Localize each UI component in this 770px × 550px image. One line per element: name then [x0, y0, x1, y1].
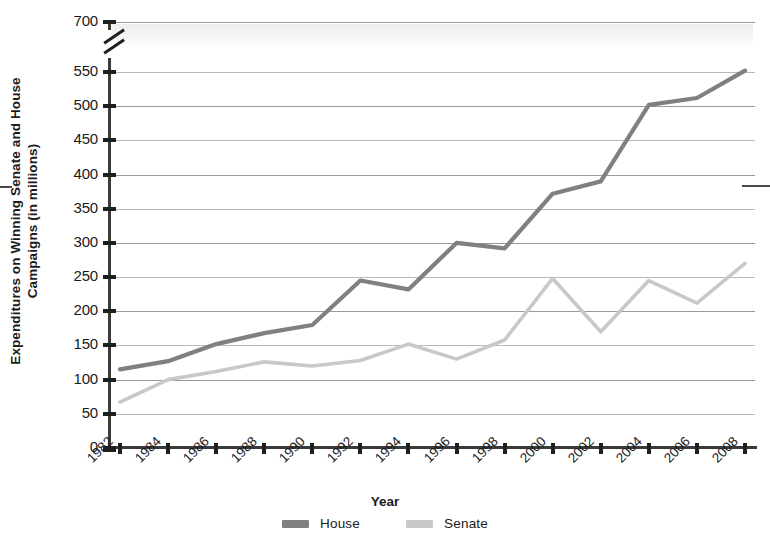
x-tick-1990 — [310, 443, 314, 454]
y-tick-label-300: 300 — [52, 233, 98, 250]
x-tick-2004 — [647, 443, 651, 454]
y-tick-550 — [103, 70, 116, 74]
legend-swatch-senate — [406, 520, 433, 528]
legend-label-senate: Senate — [444, 516, 488, 531]
y-tick-label-50: 50 — [52, 404, 98, 421]
x-tick-1994 — [406, 443, 410, 454]
y-tick-150 — [103, 343, 116, 347]
x-tick-1986 — [214, 443, 218, 454]
x-tick-2008 — [743, 443, 747, 454]
legend-swatch-house — [282, 520, 309, 528]
y-tick-label-500: 500 — [52, 96, 98, 113]
series-line-senate — [120, 263, 745, 402]
y-tick-700 — [103, 20, 116, 24]
legend-label-house: House — [320, 516, 360, 531]
y-tick-label-250: 250 — [52, 267, 98, 284]
y-tick-350 — [103, 207, 116, 211]
series-layer — [110, 22, 755, 448]
y-tick-50 — [103, 412, 116, 416]
y-tick-450 — [103, 138, 116, 142]
chart-figure: Expenditures on Winning Senate and House… — [0, 0, 770, 550]
x-tick-2006 — [695, 443, 699, 454]
y-tick-label-550: 550 — [52, 62, 98, 79]
y-axis-line — [108, 20, 111, 450]
y-axis-break-icon — [100, 26, 126, 60]
chart-legend: HouseSenate — [0, 516, 770, 531]
x-tick-1996 — [455, 443, 459, 454]
series-line-house — [120, 71, 745, 370]
x-tick-1982 — [118, 443, 122, 454]
legend-item-house[interactable]: House — [282, 516, 360, 531]
y-tick-200 — [103, 309, 116, 313]
y-tick-label-350: 350 — [52, 199, 98, 216]
x-tick-1998 — [503, 443, 507, 454]
y-tick-400 — [103, 173, 116, 177]
x-tick-1988 — [262, 443, 266, 454]
x-tick-1984 — [166, 443, 170, 454]
y-tick-label-200: 200 — [52, 301, 98, 318]
y-tick-500 — [103, 104, 116, 108]
y-tick-label-450: 450 — [52, 130, 98, 147]
y-tick-250 — [103, 275, 116, 279]
x-tick-1992 — [358, 443, 362, 454]
y-tick-100 — [103, 378, 116, 382]
y-tick-300 — [103, 241, 116, 245]
x-tick-2002 — [599, 443, 603, 454]
legend-item-senate[interactable]: Senate — [406, 516, 488, 531]
y-tick-label-700: 700 — [52, 12, 98, 29]
y-tick-label-150: 150 — [52, 335, 98, 352]
y-tick-label-100: 100 — [52, 370, 98, 387]
x-tick-2000 — [551, 443, 555, 454]
y-tick-label-400: 400 — [52, 165, 98, 182]
y-axis-title: Expenditures on Winning Senate and House… — [7, 56, 41, 386]
x-axis-title: Year — [0, 494, 770, 509]
